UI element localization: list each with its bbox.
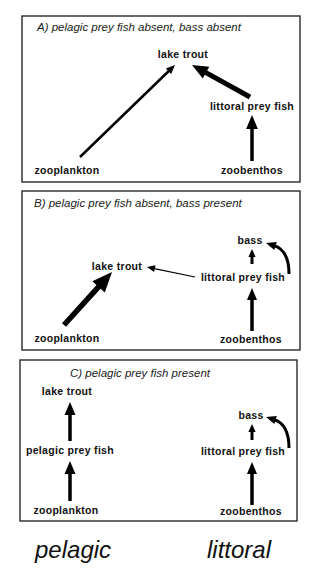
- node-lake-trout: lake trout: [158, 48, 208, 60]
- panel-a: A) pelagic prey fish absent, bass absent…: [22, 16, 300, 182]
- node-zoobenthos: zoobenthos: [221, 164, 283, 176]
- node-zoobenthos: zoobenthos: [220, 505, 282, 517]
- habitat-label-littoral: littoral: [207, 536, 272, 563]
- node-zooplankton: zooplankton: [34, 332, 99, 344]
- node-littoral-prey-fish: littoral prey fish: [201, 271, 285, 283]
- node-lake-trout: lake trout: [42, 385, 92, 397]
- habitat-label-pelagic: pelagic: [34, 536, 111, 563]
- panel-title: C) pelagic prey fish present: [70, 367, 211, 379]
- node-littoral-prey-fish: littoral prey fish: [201, 445, 285, 457]
- node-pelagic-prey-fish: pelagic prey fish: [26, 444, 114, 456]
- node-zoobenthos: zoobenthos: [220, 333, 282, 345]
- food-web-diagram: A) pelagic prey fish absent, bass absent…: [0, 0, 316, 572]
- node-zooplankton: zooplankton: [33, 504, 98, 516]
- habitat-labels: pelagiclittoral: [34, 536, 272, 563]
- panel-c: C) pelagic prey fish presentlake troutba…: [20, 360, 297, 521]
- node-littoral-prey-fish: littoral prey fish: [210, 100, 294, 112]
- node-lake-trout: lake trout: [92, 260, 142, 272]
- panel-title: A) pelagic prey fish absent, bass absent: [36, 21, 242, 33]
- node-bass: bass: [238, 409, 263, 421]
- panel-b: B) pelagic prey fish absent, bass presen…: [22, 191, 300, 350]
- panels-layer: A) pelagic prey fish absent, bass absent…: [20, 16, 300, 521]
- panel-border: [22, 16, 300, 182]
- panel-title: B) pelagic prey fish absent, bass presen…: [34, 197, 243, 209]
- node-zooplankton: zooplankton: [34, 164, 99, 176]
- node-bass: bass: [237, 234, 262, 246]
